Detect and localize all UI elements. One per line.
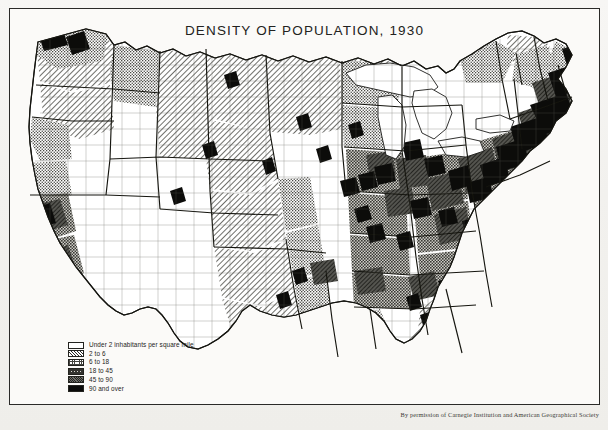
legend-swatch-18-to-45 [68,368,84,375]
credit-line: By permission of Carnegie Institution an… [401,411,599,418]
legend: Under 2 inhabitants per square mile 2 to… [68,341,258,393]
legend-item-2-to-6: 2 to 6 [68,350,258,358]
legend-swatch-under-2 [68,342,84,349]
legend-label-45-to-90: 45 to 90 [89,376,113,384]
legend-swatch-2-to-6 [68,350,84,357]
legend-label-6-to-18: 6 to 18 [89,358,109,366]
legend-item-90-and-over: 90 and over [68,384,258,392]
legend-label-under-2: Under 2 inhabitants per square mile [89,341,194,349]
legend-label-90-and-over: 90 and over [89,385,124,393]
legend-item-6-to-18: 6 to 18 [68,358,258,366]
legend-item-18-to-45: 18 to 45 [68,367,258,375]
legend-item-under-2: Under 2 inhabitants per square mile [68,341,258,349]
legend-swatch-6-to-18 [68,359,84,366]
legend-label-2-to-6: 2 to 6 [89,350,106,358]
legend-item-45-to-90: 45 to 90 [68,376,258,384]
map-page: DENSITY OF POPULATION, 1930 [0,0,608,430]
legend-label-18-to-45: 18 to 45 [89,367,113,375]
legend-swatch-45-to-90 [68,376,84,383]
legend-swatch-90-and-over [68,385,84,392]
